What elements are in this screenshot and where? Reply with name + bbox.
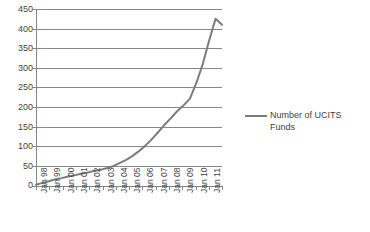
legend-swatch-icon <box>245 115 267 118</box>
y-tick-label: 400 <box>18 25 33 34</box>
y-tick-label: 250 <box>18 83 33 92</box>
x-tick-label: Jan 03 <box>107 167 116 193</box>
x-tick-label: Jan 07 <box>160 167 169 193</box>
y-tick-label: 150 <box>18 123 33 132</box>
x-tick-label: Jan 00 <box>67 167 76 193</box>
x-tick-label: Jan 02 <box>93 167 102 193</box>
series-number-of-ucits-funds <box>36 9 222 186</box>
x-tick-label: Jan 10 <box>200 167 209 193</box>
legend-item-label: Number of UCITS Funds <box>270 110 367 133</box>
x-tick-label: Jan 08 <box>173 167 182 193</box>
x-tick-label: Jan 11 <box>213 168 222 193</box>
x-tick-label: Jan 06 <box>146 167 155 193</box>
x-tick-label: Jan 09 <box>186 167 195 193</box>
x-tick-label: Jan 98 <box>40 167 49 193</box>
y-tick-label: 450 <box>18 5 33 14</box>
y-tick-label: 200 <box>18 103 33 112</box>
x-tick-label: Jan 04 <box>120 167 129 193</box>
x-tick-label: Jan 99 <box>53 167 62 193</box>
x-tick-label: Jan 05 <box>133 167 142 193</box>
chart-legend: Number of UCITS Funds <box>245 110 367 133</box>
chart-container: 450 400 350 300 250 200 150 100 50 0 <box>0 0 370 232</box>
y-tick-label: 350 <box>18 44 33 53</box>
y-tick-label: 100 <box>18 142 33 151</box>
y-tick-label: 300 <box>18 64 33 73</box>
y-axis-tick-labels: 450 400 350 300 250 200 150 100 50 0 <box>0 0 33 232</box>
x-tick-label: Jan 01 <box>80 167 89 193</box>
